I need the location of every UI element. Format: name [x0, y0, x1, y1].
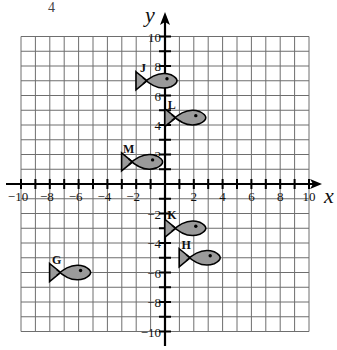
- fish-label: G: [52, 253, 61, 267]
- y-tick-label: 6: [155, 89, 162, 104]
- fish-body-icon: [172, 110, 206, 125]
- fish-label: L: [168, 98, 176, 112]
- x-tick-label: 2: [191, 189, 198, 204]
- fish-markers: JLMKHG: [50, 61, 221, 282]
- fish-l: L: [165, 98, 206, 127]
- fish-h: H: [179, 238, 220, 267]
- tick-labels: −10−8−6−4−2246810108642−2−4−6−8−10xy: [8, 2, 334, 340]
- y-tick-label: −4: [147, 236, 161, 251]
- fish-body-icon: [129, 155, 163, 170]
- x-tick-label: −2: [126, 189, 140, 204]
- fish-m: M: [122, 142, 163, 171]
- fish-label: J: [140, 61, 146, 75]
- fish-body-icon: [186, 250, 220, 265]
- y-tick-label: 4: [155, 118, 162, 133]
- y-tick-label: 8: [155, 59, 162, 74]
- x-tick-label: 10: [303, 189, 316, 204]
- fish-k: K: [165, 208, 206, 237]
- fish-eye-icon: [194, 114, 197, 117]
- y-axis-label: y: [143, 2, 155, 27]
- fish-body-icon: [57, 265, 91, 280]
- fish-label: H: [182, 238, 192, 252]
- y-tick-label: −6: [147, 266, 161, 281]
- y-tick-label: −8: [147, 295, 161, 310]
- x-tick-label: 4: [219, 189, 226, 204]
- x-tick-label: 6: [248, 189, 255, 204]
- x-axis-label: x: [323, 183, 334, 208]
- x-tick-label: −6: [69, 189, 83, 204]
- fish-eye-icon: [165, 77, 168, 80]
- fish-eye-icon: [209, 254, 212, 257]
- fish-body-icon: [172, 221, 206, 236]
- y-tick-label: 10: [148, 30, 161, 45]
- fish-body-icon: [143, 73, 177, 88]
- fish-label: K: [167, 208, 177, 222]
- x-tick-label: 8: [277, 189, 284, 204]
- fish-eye-icon: [151, 158, 154, 161]
- coordinate-plane: −10−8−6−4−2246810108642−2−4−6−8−10xy JLM…: [0, 0, 337, 350]
- x-tick-label: −4: [97, 189, 111, 204]
- fish-g: G: [50, 253, 91, 282]
- y-tick-label: −2: [147, 207, 161, 222]
- y-tick-label: −10: [141, 325, 161, 340]
- axes: [6, 12, 322, 346]
- x-tick-label: −8: [40, 189, 54, 204]
- fish-eye-icon: [194, 225, 197, 228]
- fish-label: M: [123, 142, 134, 156]
- fish-eye-icon: [79, 269, 82, 272]
- x-tick-label: −10: [8, 189, 28, 204]
